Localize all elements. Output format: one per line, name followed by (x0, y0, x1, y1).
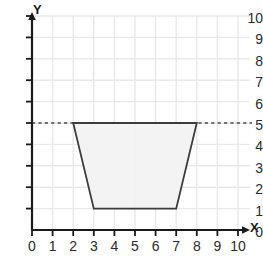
x-tick-label-10: 10 (227, 239, 249, 253)
coordinate-graph: Y X 0 1 2 3 4 5 6 7 8 9 10 0 1 2 3 4 5 6… (0, 0, 263, 260)
x-tick-label-1: 1 (42, 239, 64, 253)
y-axis-letter-label: Y (33, 3, 42, 16)
y-tick-label-3: 3 (237, 161, 263, 175)
y-tick-label-8: 8 (237, 54, 263, 68)
y-tick-label-4: 4 (237, 139, 263, 153)
x-tick-label-0: 0 (21, 239, 43, 253)
x-tick-label-6: 6 (145, 239, 167, 253)
y-tick-label-10: 10 (237, 11, 263, 25)
trapezoid-shape (73, 123, 197, 209)
x-tick-label-3: 3 (83, 239, 105, 253)
y-tick-label-7: 7 (237, 75, 263, 89)
y-tick-label-6: 6 (237, 97, 263, 111)
y-tick-label-0: 0 (237, 225, 263, 239)
plot-surface (0, 0, 263, 260)
y-tick-label-5: 5 (237, 118, 263, 132)
y-tick-label-2: 2 (237, 182, 263, 196)
x-tick-label-8: 8 (186, 239, 208, 253)
y-axis (28, 12, 36, 230)
x-tick-label-4: 4 (103, 239, 125, 253)
y-tick-label-9: 9 (237, 32, 263, 46)
x-tick-label-2: 2 (62, 239, 84, 253)
y-tick-label-1: 1 (237, 204, 263, 218)
x-tick-label-9: 9 (206, 239, 228, 253)
x-tick-label-5: 5 (124, 239, 146, 253)
x-tick-label-7: 7 (165, 239, 187, 253)
